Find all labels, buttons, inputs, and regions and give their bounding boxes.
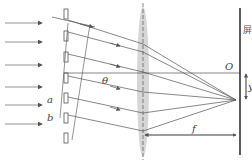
diffraction-diagram: 屏 O θ f y a b — [0, 0, 252, 163]
slit-b-label: b — [47, 113, 53, 123]
angle-label: θ — [102, 76, 108, 86]
screen-label: 屏 — [243, 26, 252, 35]
origin-label: O — [225, 62, 233, 72]
focal-length-label: f — [192, 124, 196, 134]
displacement-label: y — [248, 82, 252, 92]
slit-a-label: a — [47, 95, 53, 105]
diagram-canvas — [0, 0, 252, 163]
incident-rays — [5, 23, 42, 124]
